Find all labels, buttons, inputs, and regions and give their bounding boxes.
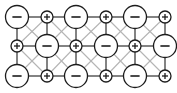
lattice-diagram-root: −+−+−++−+−+−−+−+−+	[0, 0, 177, 93]
lattice-node-negative[interactable]: −	[6, 65, 29, 88]
lattice-node-negative[interactable]: −	[36, 35, 59, 58]
lattice-node-positive[interactable]: +	[11, 40, 23, 52]
lattice-node-positive[interactable]: +	[159, 70, 171, 82]
lattice-node-negative[interactable]: −	[154, 35, 177, 58]
lattice-node-positive[interactable]: +	[100, 11, 112, 23]
lattice-node-negative[interactable]: −	[124, 65, 147, 88]
lattice-node-positive[interactable]: +	[100, 70, 112, 82]
lattice-node-negative[interactable]: −	[95, 35, 118, 58]
lattice-node-negative[interactable]: −	[65, 65, 88, 88]
lattice-canvas: −+−+−++−+−+−−+−+−+	[0, 0, 177, 93]
lattice-node-negative[interactable]: −	[124, 6, 147, 29]
lattice-node-positive[interactable]: +	[41, 11, 53, 23]
lattice-node-negative[interactable]: −	[65, 6, 88, 29]
lattice-node-positive[interactable]: +	[159, 11, 171, 23]
lattice-node-negative[interactable]: −	[6, 6, 29, 29]
lattice-node-positive[interactable]: +	[129, 40, 141, 52]
lattice-node-positive[interactable]: +	[41, 70, 53, 82]
lattice-node-positive[interactable]: +	[70, 40, 82, 52]
